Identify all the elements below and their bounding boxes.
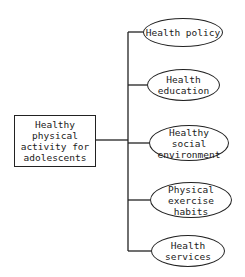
root-line-1: Healthy (21, 119, 90, 130)
node-health-education-line-1: Health (158, 74, 209, 85)
node-health-services-line-1: Health (165, 240, 211, 251)
node-health-services-line-2: services (165, 251, 211, 262)
node-health-services: Health services (151, 235, 225, 267)
node-health-education: Health education (147, 69, 220, 101)
node-health-policy-label: Health policy (146, 27, 220, 38)
root-line-4: adolescents (21, 152, 90, 163)
node-physical-exercise-habits-line-1: Physical (151, 184, 231, 195)
root-node: Healthy physical activity for adolescent… (14, 115, 96, 167)
node-physical-exercise-habits: Physical exercise habits (150, 182, 232, 218)
node-health-policy: Health policy (143, 18, 223, 47)
node-physical-exercise-habits-line-2: exercise habits (151, 195, 231, 217)
node-health-education-line-2: education (158, 85, 209, 96)
node-healthy-social-environment: Healthy social environment (149, 125, 229, 161)
node-healthy-social-environment-line-1: Healthy social (150, 127, 228, 149)
node-healthy-social-environment-line-2: environment (150, 149, 228, 160)
root-line-3: activity for (21, 141, 90, 152)
root-line-2: physical (21, 130, 90, 141)
